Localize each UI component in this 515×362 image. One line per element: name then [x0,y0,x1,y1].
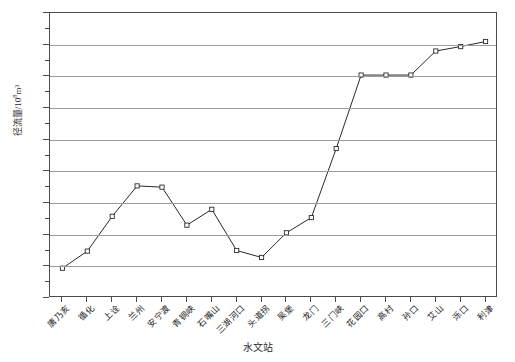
y-axis-tick [43,107,49,108]
data-point-marker [160,185,164,189]
x-axis-tick-label: 上诠 [103,304,121,322]
x-axis-tick [211,297,212,302]
x-axis-tick-label: 安宁渡 [146,304,171,329]
x-axis-tick-label: 花园口 [345,304,370,329]
x-axis-tick-label: 龙门 [302,304,320,322]
y-axis-minor-tick [45,123,49,124]
x-axis-tick-label: 青铜峡 [171,304,196,329]
y-axis-title-exponent: 8 [11,94,18,97]
x-axis-title: 水文站 [0,339,515,354]
gridline [50,171,496,172]
x-axis-tick [410,297,411,302]
y-axis-minor-tick [45,28,49,29]
y-axis-tick [43,44,49,45]
x-axis-tick [485,297,486,302]
data-series-layer [50,13,498,298]
y-axis-tick [43,234,49,235]
y-axis-minor-tick [45,186,49,187]
y-axis-tick [43,297,49,298]
gridline [50,266,496,267]
data-point-marker [259,255,263,259]
y-axis-minor-tick [45,155,49,156]
gridline [50,235,496,236]
x-axis-tick [236,297,237,302]
y-axis-minor-tick [45,60,49,61]
x-axis-tick [310,297,311,302]
runoff-line-chart: 径流量/108m³ 200250300350400450500550600650… [0,0,515,362]
x-axis-tick-label: 头道拐 [246,304,271,329]
x-axis-tick-label: 高村 [377,304,395,322]
x-axis-tick [161,297,162,302]
x-axis-tick [435,297,436,302]
x-axis-tick [285,297,286,302]
x-axis-tick [186,297,187,302]
data-point-marker [135,184,139,188]
data-point-marker [185,223,189,227]
y-axis-title-unit: m³ [13,85,23,95]
gridline [50,203,496,204]
x-axis-tick-label: 泺口 [451,304,469,322]
x-axis-tick [86,297,87,302]
y-axis-minor-tick [45,91,49,92]
data-point-marker [210,207,214,211]
x-axis-tick-label: 艾山 [426,304,444,322]
y-axis-tick [43,12,49,13]
y-axis-title-main: 径流量/10 [13,98,23,137]
y-axis-minor-tick [45,281,49,282]
gridline [50,108,496,109]
x-axis-tick [460,297,461,302]
data-point-marker [85,249,89,253]
y-axis-tick [43,265,49,266]
x-axis-tick-label: 循化 [78,304,96,322]
x-axis-tick [261,297,262,302]
x-axis-tick [61,297,62,302]
x-axis-tick-label: 三门峡 [321,304,346,329]
gridline [50,140,496,141]
x-axis-tick-label: 吴堡 [277,304,295,322]
x-axis-tick [385,297,386,302]
data-point-marker [309,215,313,219]
gridline [50,45,496,46]
data-point-marker [434,49,438,53]
x-axis-tick [360,297,361,302]
x-axis-tick-label: 兰州 [128,304,146,322]
data-point-marker [483,39,487,43]
y-axis-tick [43,170,49,171]
x-axis-tick [335,297,336,302]
x-axis-tick-label: 利津 [476,304,494,322]
gridline [50,76,496,77]
y-axis-tick [43,75,49,76]
data-point-marker [110,214,114,218]
x-axis-tick [136,297,137,302]
x-axis-tick-label: 孙口 [401,304,419,322]
y-axis-minor-tick [45,218,49,219]
plot-area [49,12,497,297]
data-point-marker [334,146,338,150]
y-axis-title: 径流量/108m³ [11,56,24,166]
runoff-markers [60,39,487,270]
y-axis-tick [43,139,49,140]
data-point-marker [235,248,239,252]
x-axis-tick-label: 唐乃亥 [47,304,72,329]
y-axis-tick [43,202,49,203]
y-axis-minor-tick [45,250,49,251]
x-axis-tick [111,297,112,302]
